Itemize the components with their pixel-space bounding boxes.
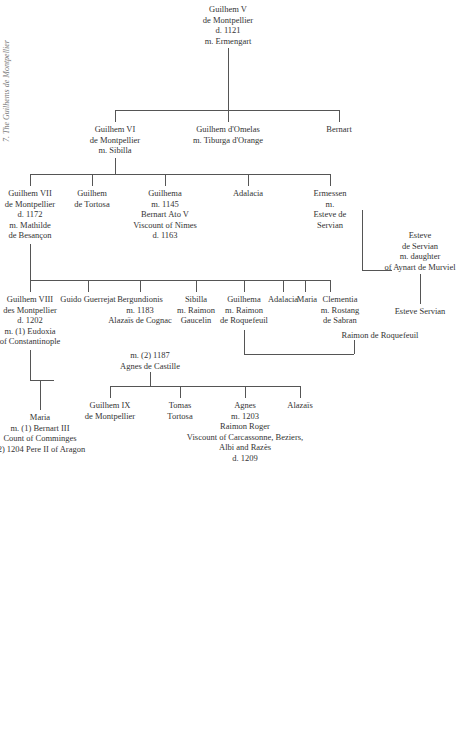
person-line: Esteve: [384, 230, 455, 241]
person-line: m. Tiburga d'Orange: [193, 135, 263, 146]
person-raimon-de-roquefeuil: Raimon de Roquefeuil: [342, 330, 419, 341]
connector: [115, 110, 116, 122]
connector: [30, 280, 330, 281]
person-line: des Montpellier: [0, 305, 60, 316]
person-line: Agnes de Castille: [120, 361, 180, 372]
person-line: Gaucelin: [177, 315, 215, 326]
person-line: Alazaïs: [287, 400, 313, 411]
person-sibilla: Sibillam. RaimonGaucelin: [177, 294, 215, 326]
connector: [283, 280, 284, 292]
person-line: m. (2) 1187: [120, 350, 180, 361]
person-ermessen: Ermessenm.Esteve deServian: [313, 188, 346, 230]
connector: [30, 280, 31, 292]
person-esteve-de-servian: Estevede Servianm. daughterof Aynart de …: [384, 230, 455, 272]
connector: [115, 110, 339, 111]
person-line: de Sabran: [321, 315, 360, 326]
person-maria: Maria: [297, 294, 317, 305]
person-line: Guilhem V: [203, 4, 253, 15]
person-line: Raimon Roger: [187, 421, 303, 432]
person-line: m. Raimon: [220, 305, 268, 316]
person-line: Guilhema: [220, 294, 268, 305]
person-line: m. 1183: [108, 305, 172, 316]
person-line: Guilhema: [133, 188, 197, 199]
connector: [330, 280, 331, 292]
person-line: m. Raimon: [177, 305, 215, 316]
person-line: d. 1121: [203, 25, 253, 36]
person-guilhem-v: Guilhem Vde Montpellierd. 1121m. Ermenga…: [203, 4, 253, 46]
connector: [30, 244, 31, 280]
person-line: m. (1) Eudoxia: [0, 326, 60, 337]
person-esteve-servian: Esteve Servian: [395, 306, 446, 317]
person-bernart: Bernart: [326, 124, 352, 135]
person-clementia: Clementiam. Rostangde Sabran: [321, 294, 360, 326]
connector: [30, 174, 31, 186]
person-line: Viscount of Nimes: [133, 220, 197, 231]
person-line: Maria: [297, 294, 317, 305]
person-bergundionis: Bergundionism. 1183Alazaïs de Cognac: [108, 294, 172, 326]
connector: [300, 386, 301, 398]
person-guilhem-vi: Guilhem VIde Montpellierm. Sibilla: [90, 124, 140, 156]
connector: [244, 354, 354, 355]
person-line: de Roquefeuil: [220, 315, 268, 326]
person-line: Maria: [0, 412, 85, 423]
person-guilhem-viii: Guilhem VIIIdes Montpellierd. 1202m. (1)…: [0, 294, 60, 347]
person-alazais: Alazaïs: [287, 400, 313, 411]
connector: [150, 372, 151, 386]
person-line: Guilhem IX: [85, 400, 135, 411]
connector: [110, 386, 111, 398]
person-line: de Tortosa: [74, 199, 109, 210]
person-guilhem-de-tortosa: Guilhemde Tortosa: [74, 188, 109, 209]
person-line: de Montpellier: [85, 411, 135, 422]
connector: [244, 280, 245, 292]
connector: [245, 386, 246, 398]
person-line: Clementia: [321, 294, 360, 305]
connector: [362, 210, 363, 270]
connector: [196, 280, 197, 292]
person-line: de Montpellier: [90, 135, 140, 146]
person-line: de Besançon: [5, 230, 55, 241]
connector: [92, 174, 93, 186]
person-line: Guilhem: [74, 188, 109, 199]
person-line: Esteve de: [313, 209, 346, 220]
connector: [165, 174, 166, 186]
connector: [140, 280, 141, 292]
person-line: Raimon de Roquefeuil: [342, 330, 419, 341]
person-line: Bernart Ato V: [133, 209, 197, 220]
person-line: Albi and Razès: [187, 442, 303, 453]
person-line: m. 1203: [187, 411, 303, 422]
person-line: Servian: [313, 220, 346, 231]
connector: [30, 350, 31, 380]
person-line: Bernart: [326, 124, 352, 135]
connector: [30, 380, 54, 381]
person-line: Agnes: [187, 400, 303, 411]
person-line: Sibilla: [177, 294, 215, 305]
connector: [40, 380, 41, 410]
person-line: de Montpellier: [203, 15, 253, 26]
connector: [248, 174, 249, 186]
figure-caption: 7. The Guilhems de Montpellier: [2, 40, 11, 142]
person-line: Ermessen: [313, 188, 346, 199]
person-guilhem-domelas: Guilhem d'Omelasm. Tiburga d'Orange: [193, 124, 263, 145]
person-guilhem-vii: Guilhem VIIde Montpellierd. 1172m. Mathi…: [5, 188, 55, 241]
connector: [30, 174, 330, 175]
connector: [244, 330, 245, 354]
person-line: d. 1202: [0, 315, 60, 326]
connector: [330, 174, 331, 186]
person-guilhema-roquefeuil: Guilhemam. Raimonde Roquefeuil: [220, 294, 268, 326]
connector: [420, 274, 421, 304]
person-adalacia: Adalacia: [233, 188, 263, 199]
person-guilhema: Guilhemam. 1145Bernart Ato VViscount of …: [133, 188, 197, 241]
person-line: Guilhem d'Omelas: [193, 124, 263, 135]
person-line: d. 1163: [133, 230, 197, 241]
person-line: m. Rostang: [321, 305, 360, 316]
person-line: de Montpellier: [5, 199, 55, 210]
person-line: m. Mathilde: [5, 220, 55, 231]
person-line: d. 1209: [187, 453, 303, 464]
connector: [228, 110, 229, 122]
connector: [339, 110, 340, 122]
person-line: of Constantinople: [0, 336, 60, 347]
person-line: m.: [313, 199, 346, 210]
connector: [110, 386, 300, 387]
person-agnes: Agnesm. 1203Raimon RogerViscount of Carc…: [187, 400, 303, 463]
connector: [180, 386, 181, 398]
